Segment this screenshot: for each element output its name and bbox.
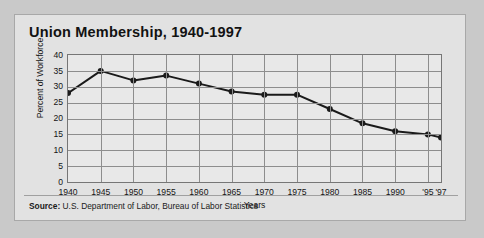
gridline-vertical (101, 55, 102, 182)
gridline-vertical (428, 55, 429, 182)
gridline-horizontal (68, 119, 441, 120)
gridline-horizontal (68, 103, 441, 104)
y-tick-label: 0 (19, 178, 63, 187)
plot-wrapper: Percent of Workforce 4035302520151050 19… (15, 15, 467, 222)
y-tick-label: 20 (19, 114, 63, 123)
y-tick-label: 35 (19, 67, 63, 76)
y-axis-ticks: 4035302520151050 (15, 54, 63, 183)
plot-area (67, 54, 442, 183)
gridline-horizontal (68, 166, 441, 167)
gridline-vertical (330, 55, 331, 182)
gridline-vertical (297, 55, 298, 182)
gridline-horizontal (68, 71, 441, 72)
gridline-vertical (199, 55, 200, 182)
source-text: U.S. Department of Labor, Bureau of Labo… (60, 201, 258, 211)
gridline-vertical (166, 55, 167, 182)
y-tick-label: 30 (19, 82, 63, 91)
gridline-vertical (133, 55, 134, 182)
y-tick-label: 10 (19, 146, 63, 155)
gridline-horizontal (68, 150, 441, 151)
chart-figure: Union Membership, 1940-1997 Percent of W… (14, 14, 466, 221)
gridline-vertical (232, 55, 233, 182)
x-axis-ticks: 1940194519501955196019651970197519801985… (67, 187, 442, 201)
series-line (68, 71, 441, 138)
y-tick-label: 40 (19, 51, 63, 60)
data-point-marker (438, 135, 441, 141)
source-note: Source: U.S. Department of Labor, Bureau… (29, 201, 258, 211)
source-label: Source: (29, 201, 60, 211)
gridline-horizontal (68, 134, 441, 135)
gridline-vertical (264, 55, 265, 182)
gridline-vertical (362, 55, 363, 182)
gridline-horizontal (68, 87, 441, 88)
y-tick-label: 5 (19, 162, 63, 171)
y-tick-label: 15 (19, 130, 63, 139)
source-divider (24, 195, 458, 196)
gridline-vertical (395, 55, 396, 182)
y-tick-label: 25 (19, 98, 63, 107)
